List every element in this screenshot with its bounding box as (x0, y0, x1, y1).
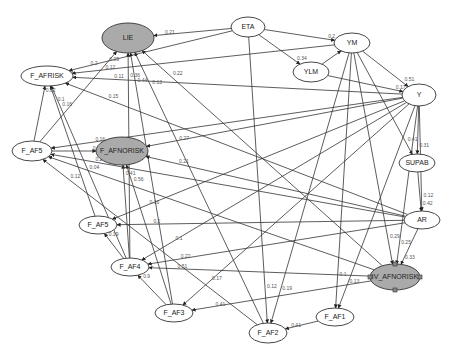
node-f-afnorisk[interactable]: F_AFNORISK (96, 137, 148, 165)
edge-f_af4-to-f_afnorisk[interactable] (123, 165, 129, 258)
edge-coefficient-label: 0.21 (165, 29, 175, 35)
edge-y-to-f_afrisk[interactable] (73, 77, 402, 94)
node-label: F_AF4 (119, 263, 140, 271)
edge-coefficient-label: 0.2 (153, 218, 160, 224)
edge-f_af5-to-f_afrisk[interactable] (34, 86, 45, 141)
node-ym[interactable]: YM (334, 33, 370, 53)
node-f-af5b[interactable]: F_AF5 (79, 216, 117, 234)
edge-coefficient-label: 0.62 (46, 87, 56, 93)
resize-handle-right[interactable] (418, 275, 422, 279)
node-f-af3[interactable]: F_AF3 (155, 304, 193, 322)
edge-f_af2-to-lie[interactable] (135, 53, 264, 324)
edge-iv_afnorisk-to-f_af4[interactable] (149, 268, 370, 276)
edge-ylm-to-ym[interactable] (322, 51, 341, 64)
node-label: F_AF5 (21, 147, 42, 155)
edge-coefficient-label: 0.29 (390, 233, 400, 239)
node-f-af1[interactable]: F_AF1 (316, 308, 354, 326)
resize-handle-bottom[interactable] (393, 288, 397, 292)
edge-iv_afnorisk-to-f_af5[interactable] (48, 157, 374, 270)
node-iv-afnorisk[interactable]: IV_AFNORISK (370, 264, 420, 290)
node-eta[interactable]: ETA (231, 17, 265, 37)
edge-coefficient-label: 0.2 (328, 33, 335, 39)
edge-coefficient-label: 0.04 (90, 164, 100, 170)
edge-coefficient-label: 0.41 (291, 322, 301, 328)
edge-coefficient-label: 0.13 (350, 278, 360, 284)
node-label: SUPAB (405, 159, 429, 166)
edge-coefficient-label: 0.31 (419, 142, 429, 148)
node-label: F_AF1 (324, 313, 345, 321)
edge-coefficient-label: 0.34 (297, 55, 307, 61)
node-lie[interactable]: LIE (102, 23, 154, 53)
edge-coefficient-label: 0.1 (58, 96, 65, 102)
node-label: YLM (304, 68, 319, 75)
edge-coefficient-label: 0.33 (405, 254, 415, 260)
node-f-af5[interactable]: F_AF5 (12, 141, 52, 161)
edge-coefficient-label: 0.11 (114, 73, 124, 79)
edge-coefficient-label: 0.12 (424, 192, 434, 198)
edge-coefficient-label: 0.36 (130, 72, 140, 78)
edge-coefficient-label: 0.44 (138, 77, 148, 83)
edge-coefficient-label: 0.22 (181, 253, 191, 259)
edge-coefficient-label: 0.21 (179, 158, 189, 164)
node-label: LIE (123, 34, 134, 41)
node-label: F_AFRISK (30, 72, 64, 80)
node-label: Y (417, 91, 422, 98)
nodes-layer: LIEETAYMYLMYF_AFRISKF_AF5F_AFNORISKSUPAB… (12, 17, 440, 343)
edge-coefficient-label: 0.12 (267, 283, 277, 289)
edge-ylm-to-y[interactable] (328, 76, 403, 92)
edge-coefficient-label: 0.9 (143, 273, 150, 279)
edge-coefficient-label: 0.51 (178, 263, 188, 269)
edge-coefficient-label: 0.2 (91, 60, 98, 66)
node-label: YM (347, 39, 358, 46)
edge-coefficient-label: 0.41 (408, 136, 418, 142)
node-label: F_AF5 (87, 221, 108, 229)
edge-coefficient-label: 0.17 (212, 275, 222, 281)
edge-coefficient-label: 0.27 (179, 135, 189, 141)
node-y[interactable]: Y (402, 84, 436, 106)
node-f-afrisk[interactable]: F_AFRISK (21, 66, 73, 86)
edge-coefficient-label: 0.25 (401, 239, 411, 245)
edge-ym-to-y[interactable] (363, 51, 409, 87)
edge-coefficient-label: 0.19 (282, 285, 292, 291)
edge-coefficient-label: 0.09 (109, 56, 119, 62)
edge-coefficient-label: 0.51 (405, 76, 415, 82)
node-label: IV_AFNORISK (372, 273, 419, 281)
resize-handle-top[interactable] (393, 262, 397, 266)
edge-eta-to-ym[interactable] (264, 30, 334, 41)
edge-coefficient-label: 0.1 (176, 235, 183, 241)
edge-coefficient-label: 0.17 (396, 84, 406, 90)
node-label: F_AF3 (163, 309, 184, 317)
edge-coefficient-label: 0.42 (423, 200, 433, 206)
edge-f_af3-to-f_af4[interactable] (138, 275, 166, 305)
resize-handle-left[interactable] (368, 275, 372, 279)
node-label: AR (417, 216, 427, 223)
edge-ym-to-iv_afnorisk[interactable] (354, 53, 393, 264)
node-ar[interactable]: AR (404, 211, 440, 229)
edge-coefficient-label: 0.1 (340, 271, 347, 277)
node-f-af4[interactable]: F_AF4 (111, 258, 149, 276)
edge-coefficient-label: 0.12 (71, 173, 81, 179)
path-diagram-canvas: 0.210.20.340.250.510.170.310.410.420.120… (0, 0, 459, 361)
node-supab[interactable]: SUPAB (399, 154, 435, 172)
node-label: F_AF2 (257, 329, 278, 337)
edge-eta-to-f_af2[interactable] (249, 37, 268, 323)
edge-coefficient-label: 0.41 (216, 301, 226, 307)
edge-coefficient-label: 0.13 (152, 79, 162, 85)
edge-coefficient-label: 0.56 (134, 176, 144, 182)
node-label: ETA (241, 23, 254, 30)
edge-coefficient-label: 0.12 (106, 64, 116, 70)
edge-coefficient-label: 0.15 (109, 93, 119, 99)
node-ylm[interactable]: YLM (293, 62, 329, 82)
edge-ar-to-f_afnorisk[interactable] (146, 157, 406, 217)
node-f-af2[interactable]: F_AF2 (249, 323, 287, 343)
edge-coefficient-label: 0.22 (173, 70, 183, 76)
edge-coefficient-label: 0.16 (150, 199, 160, 205)
edges-layer (34, 29, 422, 329)
node-label: F_AFNORISK (100, 147, 144, 155)
